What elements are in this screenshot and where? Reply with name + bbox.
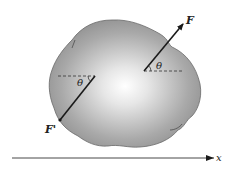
diagram-canvas: F θ θ F' x bbox=[0, 0, 232, 175]
force-diagram: F θ θ F' x bbox=[0, 0, 232, 175]
label-force-F: F bbox=[185, 14, 195, 27]
label-angle-right: θ bbox=[156, 60, 162, 71]
x-axis-label: x bbox=[216, 152, 222, 163]
label-angle-left: θ bbox=[77, 77, 83, 88]
label-force-F-prime: F' bbox=[44, 123, 56, 136]
rigid-body bbox=[49, 20, 201, 147]
